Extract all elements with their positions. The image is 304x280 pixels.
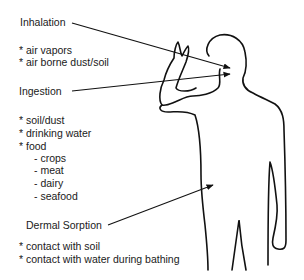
body-outline: [207, 35, 286, 265]
food-subitem: - dairy: [34, 177, 63, 189]
route-label-ingestion: Ingestion: [19, 85, 62, 97]
left-side-outline: [160, 42, 220, 105]
torso-left-line: [160, 105, 208, 270]
inhalation-item: * air borne dust/soil: [19, 56, 109, 68]
food-subitem: - meat: [34, 164, 64, 176]
dermal-arrow: [108, 185, 213, 225]
ingestion-item: * drinking water: [19, 127, 91, 139]
dermal-item: * contact with water during bathing: [19, 253, 180, 265]
ingestion-item: * food: [19, 140, 46, 152]
inhalation-item: * air vapors: [19, 44, 72, 56]
ingestion-item: * soil/dust: [19, 114, 65, 126]
food-subitem: - crops: [34, 152, 66, 164]
exposure-routes-diagram: Inhalation * air vapors * air borne dust…: [0, 0, 304, 280]
ingestion-arrow: [72, 74, 230, 91]
route-label-dermal-sorption: Dermal Sorption: [26, 219, 102, 231]
legs-gap: [232, 220, 246, 270]
route-label-inhalation: Inhalation: [20, 16, 66, 28]
dermal-item: * contact with soil: [19, 240, 100, 252]
food-subitem: - seafood: [34, 190, 78, 202]
